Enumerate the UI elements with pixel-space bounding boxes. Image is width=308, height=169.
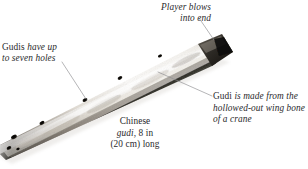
- label-gudis-holes-line1: have up: [25, 42, 57, 52]
- label-gudi-material-line1: is made from the: [232, 91, 298, 101]
- label-gudis-holes-line2: to seven holes: [2, 53, 56, 63]
- figure-caption-name: gudi: [117, 128, 134, 138]
- label-gudis-holes-keyword: Gudis: [2, 42, 25, 52]
- leader-line-holes: [62, 62, 86, 99]
- figure-caption-line1: Chinese: [120, 116, 151, 126]
- figure-caption-line3: (20 cm) long: [110, 139, 159, 149]
- label-gudi-material-line2: hollowed-out wing bone: [213, 103, 305, 113]
- label-gudi-material-keyword: Gudi: [213, 91, 232, 101]
- label-player-blows: Player blows into end: [133, 2, 211, 25]
- gudi-flute-figure: Player blows into end Gudis have up to s…: [0, 0, 308, 169]
- label-gudis-holes: Gudis have up to seven holes: [2, 42, 57, 65]
- finger-hole: [117, 75, 123, 80]
- figure-caption-size: , 8 in: [134, 128, 153, 138]
- label-player-blows-line2: into end: [180, 13, 211, 23]
- label-gudi-material: Gudi is made from the hollowed-out wing …: [213, 91, 305, 126]
- label-gudi-material-line3: of a crane: [213, 114, 252, 124]
- label-player-blows-line1: Player blows: [161, 2, 211, 12]
- figure-caption: Chinese gudi, 8 in (20 cm) long: [96, 116, 174, 151]
- finger-hole: [157, 54, 162, 59]
